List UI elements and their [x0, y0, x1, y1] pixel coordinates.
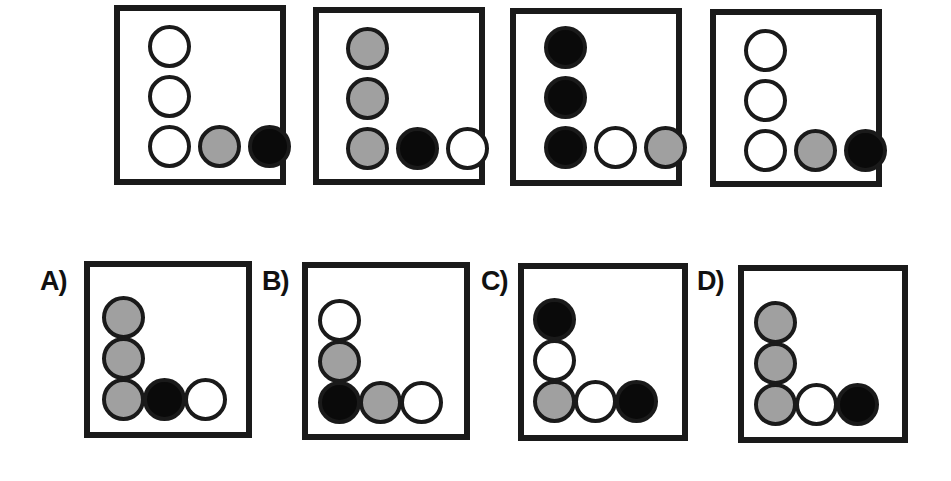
white-circle [744, 29, 787, 72]
sequence-box-3 [510, 8, 682, 186]
gray-circle [754, 383, 797, 426]
option-box-1[interactable] [84, 261, 252, 438]
black-circle [396, 127, 439, 170]
white-circle [795, 383, 838, 426]
gray-circle [644, 126, 687, 169]
white-circle [744, 79, 787, 122]
option-box-4[interactable] [738, 265, 908, 443]
black-circle [143, 378, 186, 421]
option-label-b: B) [262, 266, 289, 297]
gray-circle [754, 301, 797, 344]
sequence-box-2 [313, 7, 485, 185]
option-label-d: D) [697, 266, 724, 297]
gray-circle [359, 381, 402, 424]
black-circle [615, 380, 658, 423]
white-circle [148, 75, 191, 118]
white-circle [446, 127, 489, 170]
black-circle [544, 76, 587, 119]
option-label-c: C) [481, 266, 508, 297]
white-circle [148, 125, 191, 168]
black-circle [533, 298, 576, 341]
white-circle [574, 380, 617, 423]
gray-circle [318, 340, 361, 383]
black-circle [836, 383, 879, 426]
white-circle [148, 25, 191, 68]
black-circle [248, 125, 291, 168]
gray-circle [346, 127, 389, 170]
gray-circle [346, 77, 389, 120]
white-circle [533, 339, 576, 382]
white-circle [744, 129, 787, 172]
black-circle [318, 381, 361, 424]
option-label-a: A) [40, 266, 67, 297]
white-circle [594, 126, 637, 169]
gray-circle [102, 378, 145, 421]
gray-circle [102, 296, 145, 339]
black-circle [544, 126, 587, 169]
gray-circle [794, 129, 837, 172]
option-box-2[interactable] [302, 262, 470, 440]
gray-circle [346, 27, 389, 70]
gray-circle [198, 125, 241, 168]
black-circle [844, 129, 887, 172]
gray-circle [102, 337, 145, 380]
white-circle [400, 381, 443, 424]
gray-circle [533, 380, 576, 423]
white-circle [318, 299, 361, 342]
black-circle [544, 26, 587, 69]
option-box-3[interactable] [518, 263, 688, 441]
gray-circle [754, 342, 797, 385]
white-circle [184, 378, 227, 421]
sequence-box-1 [114, 5, 286, 185]
sequence-box-4 [710, 9, 882, 187]
